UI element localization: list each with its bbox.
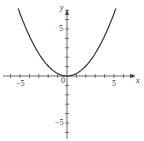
y-tick-label-5: 5 bbox=[59, 25, 63, 33]
axis-ticks bbox=[11, 10, 133, 132]
x-tick-label-neg5: −5 bbox=[16, 80, 25, 88]
x-tick-label-5: 5 bbox=[112, 80, 116, 88]
y-tick-label-neg5: −5 bbox=[55, 119, 64, 127]
origin-label: 0 bbox=[61, 77, 65, 85]
y-axis-label: y bbox=[60, 4, 64, 12]
chart-plot bbox=[0, 0, 144, 141]
x-axis-label: x bbox=[136, 77, 140, 85]
